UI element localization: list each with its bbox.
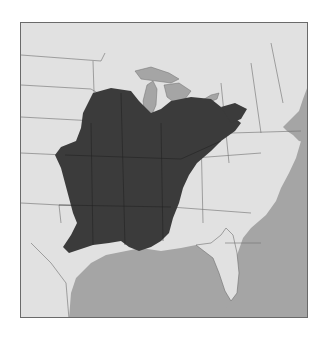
map-frame (20, 22, 308, 318)
range-map (21, 23, 308, 318)
